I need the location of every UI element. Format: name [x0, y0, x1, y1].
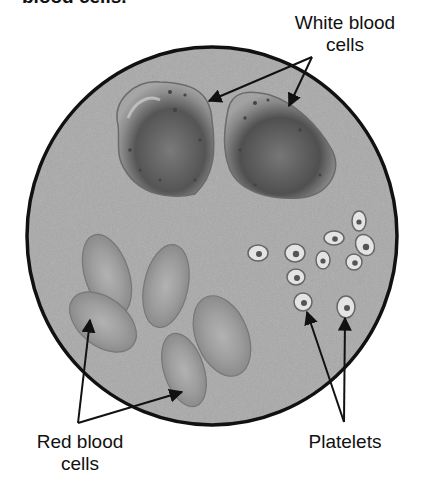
label-line: cells	[20, 453, 140, 475]
label-line: cells	[280, 34, 410, 56]
platelet	[324, 231, 344, 245]
microscope-view-diagram	[0, 0, 423, 493]
label-line: Red blood	[20, 431, 140, 453]
platelet	[287, 269, 305, 285]
label-platelets: Platelets	[300, 431, 390, 453]
platelet	[294, 293, 312, 311]
platelet	[316, 251, 330, 269]
platelet	[346, 254, 362, 270]
platelet	[337, 296, 355, 318]
platelet	[285, 244, 305, 262]
platelet	[352, 211, 366, 231]
white-blood-cell	[117, 82, 214, 196]
label-line: White blood	[280, 12, 410, 34]
label-white-blood-cells: White blood cells	[280, 12, 410, 56]
platelet	[248, 245, 268, 261]
label-red-blood-cells: Red blood cells	[20, 431, 140, 475]
label-line: Platelets	[300, 431, 390, 453]
